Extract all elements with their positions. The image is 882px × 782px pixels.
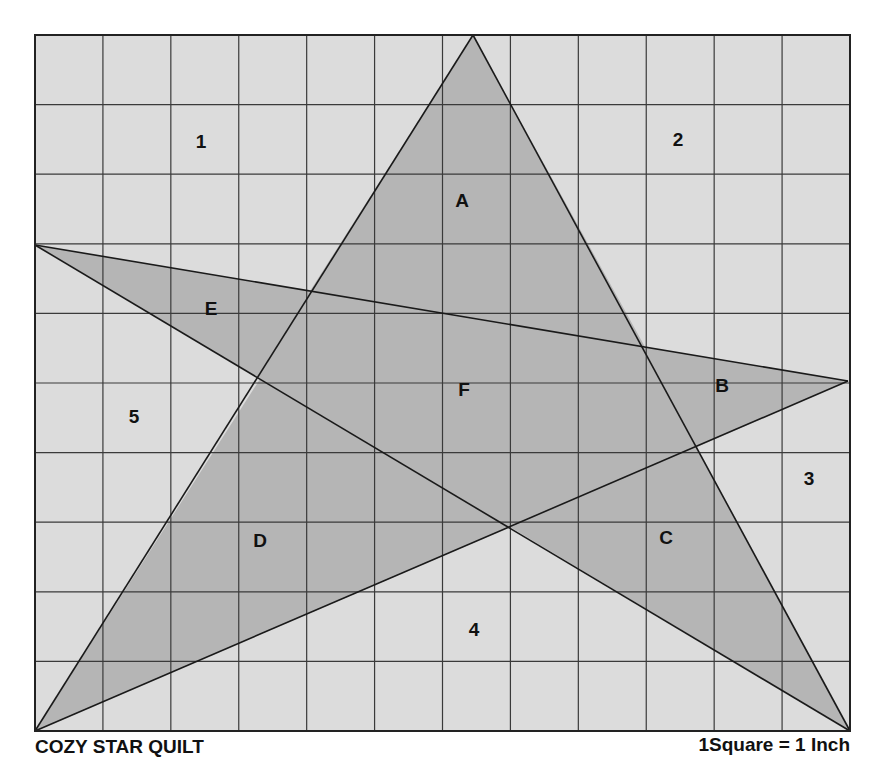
region-label-2: 2 bbox=[673, 129, 684, 150]
region-label-b: B bbox=[715, 375, 729, 396]
region-label-3: 3 bbox=[804, 468, 815, 489]
region-label-e: E bbox=[205, 298, 218, 319]
region-label-f: F bbox=[458, 379, 470, 400]
region-label-a: A bbox=[455, 190, 469, 211]
scale-note: 1Square = 1 Inch bbox=[698, 734, 850, 756]
region-label-5: 5 bbox=[129, 406, 140, 427]
region-label-4: 4 bbox=[469, 619, 480, 640]
region-label-d: D bbox=[253, 530, 267, 551]
diagram-title: COZY STAR QUILT bbox=[35, 736, 204, 758]
region-label-c: C bbox=[659, 527, 673, 548]
quilt-diagram: 12345ABCDEF bbox=[0, 0, 882, 782]
region-label-1: 1 bbox=[196, 131, 207, 152]
